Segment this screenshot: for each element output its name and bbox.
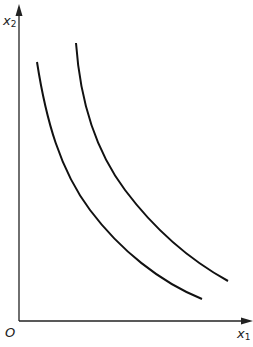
x-axis-arrow-icon (241, 318, 253, 325)
curve-outer (76, 43, 228, 281)
y-axis-arrow-icon (16, 4, 23, 16)
diagram (0, 0, 253, 347)
curve-inner (37, 62, 202, 299)
y-axis (16, 4, 23, 321)
x-axis-label: x1 (237, 327, 250, 342)
y-axis-label: x2 (3, 14, 16, 29)
x-axis (19, 318, 253, 325)
origin-label: O (5, 326, 15, 339)
